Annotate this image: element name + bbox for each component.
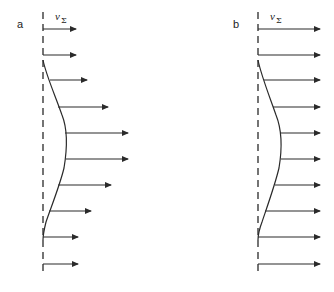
velocity-profile-curve [43,60,66,240]
panel-b: bvΣ [233,10,320,274]
panel-label: a [17,18,24,30]
velocity-subscript: Σ [61,16,67,25]
velocity-label: vΣ [270,10,282,25]
velocity-symbol: v [270,10,275,22]
velocity-label: vΣ [55,10,67,25]
velocity-profile-figure: avΣ bvΣ [0,0,334,292]
velocity-profile-curve [258,60,281,240]
velocity-symbol: v [55,10,60,22]
panel-a: avΣ [17,10,128,274]
panel-label: b [233,18,239,30]
velocity-subscript: Σ [276,16,282,25]
